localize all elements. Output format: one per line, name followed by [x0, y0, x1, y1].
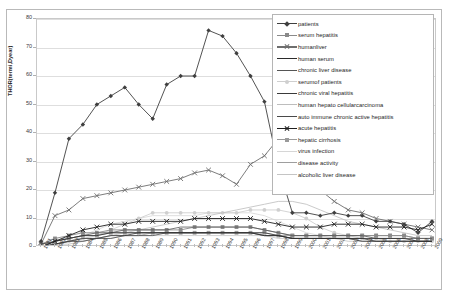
y-axis-tick-label: 20 — [6, 186, 32, 192]
legend-label: alcoholic liver disease — [298, 171, 356, 179]
x-axis-tick-mark — [291, 244, 292, 247]
data-point-marker — [193, 211, 197, 215]
data-point-marker — [151, 211, 155, 215]
legend-line — [277, 104, 297, 105]
legend-label: human serum — [298, 55, 334, 63]
data-point-marker — [235, 211, 239, 215]
data-point-marker — [179, 211, 183, 215]
legend-item[interactable]: alcoholic liver disease — [276, 169, 431, 181]
x-axis-tick-mark — [361, 244, 362, 247]
data-point-marker — [318, 213, 322, 217]
legend-item[interactable]: chronic viral hepatitis — [276, 88, 431, 100]
legend-item[interactable]: patients — [276, 18, 431, 30]
x-axis-tick-mark — [180, 244, 181, 247]
legend-item[interactable]: serumof patients — [276, 76, 431, 88]
legend-swatch — [276, 54, 298, 64]
legend-swatch — [276, 170, 298, 180]
data-point-marker — [178, 74, 182, 78]
legend-label: disease activity — [298, 159, 338, 167]
x-axis-tick-mark — [263, 244, 264, 247]
x-axis-tick-mark — [277, 244, 278, 247]
x-axis-tick-mark — [375, 244, 376, 247]
x-axis: 1981198219831984198519861987198819891990… — [36, 247, 436, 293]
legend-item[interactable]: acute hepatitis — [276, 122, 431, 134]
legend-swatch — [276, 135, 298, 145]
legend-label: patients — [298, 20, 319, 28]
x-axis-tick-mark — [249, 244, 250, 247]
legend-item[interactable]: humanliver — [276, 41, 431, 53]
legend-marker-diamond — [284, 21, 290, 27]
legend-marker-star — [284, 44, 290, 50]
x-axis-tick-mark — [54, 244, 55, 247]
legend-line — [277, 162, 297, 163]
y-axis-tick-label: 10 — [6, 215, 32, 221]
data-point-marker — [67, 208, 72, 213]
legend-item[interactable]: human hepato cellularcarcinoma — [276, 99, 431, 111]
x-axis-tick-mark — [389, 244, 390, 247]
x-axis-tick-mark — [82, 244, 83, 247]
legend-swatch — [276, 77, 298, 87]
legend-item[interactable]: disease activity — [276, 157, 431, 169]
data-point-marker — [179, 228, 183, 232]
legend-swatch — [276, 112, 298, 122]
y-axis-tick-label: 30 — [6, 158, 32, 164]
legend-label: hepatic cirrhosis — [298, 136, 341, 144]
data-point-marker — [346, 213, 350, 217]
plot-right-border — [435, 18, 436, 247]
x-axis-tick-mark — [222, 244, 223, 247]
legend-label: humanliver — [298, 43, 327, 51]
legend-item[interactable]: serum hepatitis — [276, 30, 431, 42]
legend-item[interactable]: auto immune chronic active hepatitis — [276, 111, 431, 123]
legend-label: chronic viral hepatitis — [298, 89, 353, 97]
data-point-marker — [109, 228, 113, 232]
data-point-marker — [220, 173, 225, 178]
legend-line — [277, 151, 297, 152]
y-axis-tick-label: 40 — [6, 129, 32, 135]
legend-label: serumof patients — [298, 78, 342, 86]
x-axis-tick-mark — [333, 244, 334, 247]
legend-swatch — [276, 65, 298, 75]
legend-line — [277, 58, 297, 59]
y-axis-title: THOR(termi,Dyear) — [7, 12, 13, 96]
legend-swatch — [276, 100, 298, 110]
x-axis-tick-mark — [68, 244, 69, 247]
data-point-marker — [263, 208, 267, 212]
x-axis-tick-mark — [417, 244, 418, 247]
data-point-marker — [402, 234, 406, 238]
legend-item[interactable]: virus infection — [276, 146, 431, 158]
y-axis-tick-label: 0 — [6, 243, 32, 249]
y-axis-tick-label: 60 — [6, 72, 32, 78]
x-axis-tick-mark — [319, 244, 320, 247]
x-axis-tick-mark — [431, 244, 432, 247]
legend-swatch — [276, 123, 298, 133]
y-axis-tick-label: 70 — [6, 44, 32, 50]
legend-marker-square — [285, 33, 289, 37]
data-point-marker — [53, 213, 58, 218]
data-point-marker — [164, 82, 168, 86]
y-axis-tick-label: 50 — [6, 101, 32, 107]
legend-label: human hepato cellularcarcinoma — [298, 101, 383, 109]
data-point-marker — [207, 211, 211, 215]
legend-item[interactable]: chronic liver disease — [276, 64, 431, 76]
legend-item[interactable]: human serum — [276, 53, 431, 65]
legend-swatch — [276, 30, 298, 40]
legend-label: virus infection — [298, 147, 334, 155]
legend-line — [277, 116, 297, 117]
legend-swatch — [276, 19, 298, 29]
legend-line — [277, 174, 297, 175]
x-axis-tick-mark — [208, 244, 209, 247]
data-point-marker — [249, 208, 253, 212]
legend-item[interactable]: hepatic cirrhosis — [276, 134, 431, 146]
data-point-marker — [332, 211, 336, 215]
data-point-marker — [388, 234, 392, 238]
x-axis-tick-mark — [138, 244, 139, 247]
legend-swatch — [276, 42, 298, 52]
legend-label: serum hepatitis — [298, 31, 338, 39]
legend-line — [277, 93, 297, 94]
data-point-marker — [206, 28, 210, 32]
data-point-marker — [165, 211, 169, 215]
x-axis-tick-mark — [96, 244, 97, 247]
chart-root: THOR(termi,Dyear) 01020304050607080 1981… — [0, 0, 450, 300]
legend-marker-star — [284, 125, 290, 131]
x-axis-tick-mark — [110, 244, 111, 247]
